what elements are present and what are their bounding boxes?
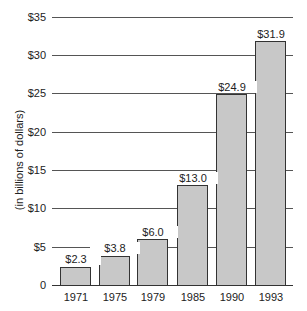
value-label-1985: $13.0 <box>168 172 218 184</box>
y-tick-20: $20 <box>0 126 46 138</box>
bar-1971 <box>60 267 91 285</box>
bar-1985 <box>177 185 208 285</box>
gridline-35 <box>52 17 293 18</box>
y-tick-30: $30 <box>0 49 46 61</box>
y-tick-0: 0 <box>0 279 46 291</box>
value-label-1993: $31.9 <box>246 28 296 40</box>
y-tick-35: $35 <box>0 11 46 23</box>
value-label-1975: $3.8 <box>90 242 140 254</box>
bar-1979 <box>137 239 168 285</box>
value-label-1990: $24.9 <box>207 81 257 93</box>
y-axis-label: (in billions of dollars) <box>13 110 25 210</box>
bar-chart: (in billions of dollars) 0 $5 $10 $15 $2… <box>0 0 307 311</box>
x-label-1993: 1993 <box>246 291 296 303</box>
bar-1990 <box>216 94 247 285</box>
x-axis-line <box>52 285 293 286</box>
y-tick-5: $5 <box>0 241 46 253</box>
y-tick-25: $25 <box>0 87 46 99</box>
bar-1993 <box>255 41 286 285</box>
value-label-1971: $2.3 <box>51 253 101 265</box>
y-tick-10: $10 <box>0 202 46 214</box>
value-label-1979: $6.0 <box>128 226 178 238</box>
bar-1975 <box>99 256 130 285</box>
y-tick-15: $15 <box>0 164 46 176</box>
